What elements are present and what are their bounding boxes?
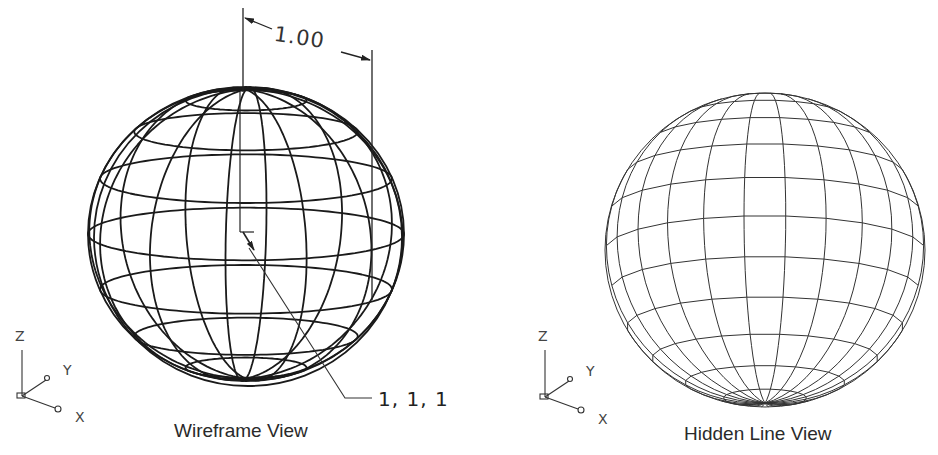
- center-marker: [240, 92, 254, 250]
- dimension-arrow-right: [341, 52, 370, 60]
- ucs-x-label: X: [75, 409, 85, 425]
- leader-label: 1, 1, 1: [378, 387, 449, 411]
- ucs-axis-icon: [17, 350, 61, 412]
- ucs-z-label: Z: [15, 328, 25, 344]
- ucs-x-label: X: [598, 411, 608, 427]
- dimension-arrow-left: [245, 18, 272, 29]
- hidden-line-sphere: [605, 93, 925, 407]
- ucs-z-label: Z: [538, 328, 548, 344]
- ucs-axis-icon: [540, 350, 584, 413]
- ucs-y-label: Y: [586, 363, 595, 379]
- ucs-y-label: Y: [63, 362, 72, 378]
- figure-canvas: [0, 0, 938, 455]
- caption-hidden-line: Hidden Line View: [684, 423, 832, 445]
- caption-wireframe: Wireframe View: [174, 420, 308, 442]
